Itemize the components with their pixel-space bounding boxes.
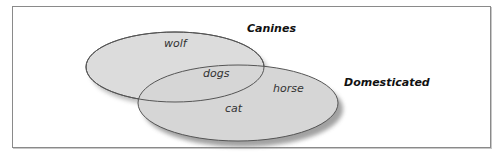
- wolf-label: wolf: [164, 37, 189, 50]
- venn-diagram: Canines Domesticated wolf dogs horse cat: [0, 0, 503, 156]
- dogs-label: dogs: [203, 67, 230, 80]
- domesticated-label: Domesticated: [344, 76, 430, 89]
- horse-label: horse: [273, 82, 304, 95]
- cat-label: cat: [225, 102, 243, 115]
- canines-label: Canines: [247, 22, 296, 35]
